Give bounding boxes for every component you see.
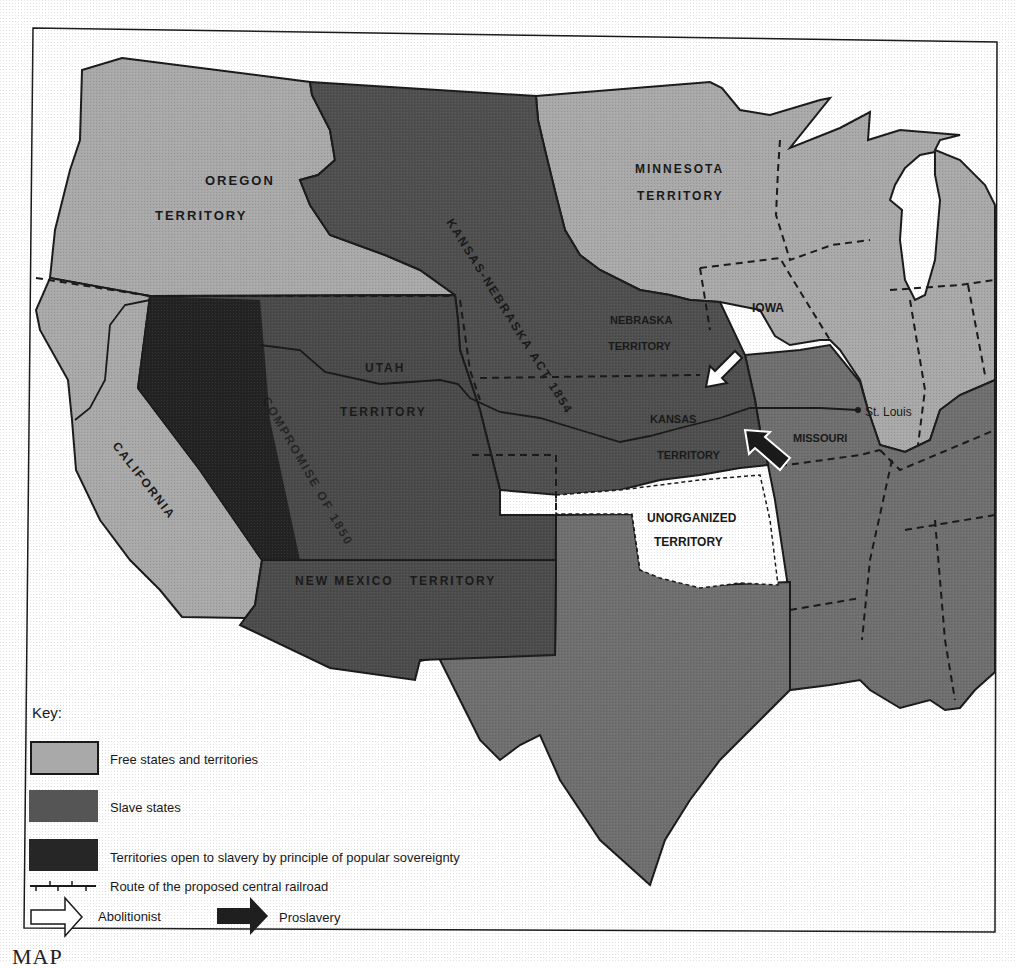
label-new-mexico-territory: NEW MEXICO TERRITORY [295, 574, 496, 588]
key-label-popular-sovereignty: Territories open to slavery by principle… [110, 850, 460, 865]
free-swatch-icon [31, 742, 98, 774]
label-kansas-territory: TERRITORY [657, 449, 721, 461]
label-kansas: KANSAS [650, 413, 696, 425]
label-missouri: MISSOURI [793, 432, 847, 444]
label-minnesota: MINNESOTA [635, 162, 724, 176]
key-label-free: Free states and territories [110, 752, 259, 767]
slave-swatch-icon [29, 790, 98, 822]
label-unorganized: UNORGANIZED [647, 511, 737, 525]
label-st-louis: St. Louis [865, 405, 912, 419]
key-title: Key: [32, 704, 62, 721]
label-oregon-territory: TERRITORY [155, 208, 247, 223]
key-label-slave: Slave states [110, 800, 181, 815]
key-label-railroad: Route of the proposed central railroad [110, 879, 328, 894]
label-utah: UTAH [365, 361, 405, 375]
label-unorganized-territory: TERRITORY [654, 535, 723, 549]
popular-sovereignty-swatch-icon [29, 839, 98, 871]
label-nebraska-territory: TERRITORY [608, 340, 672, 352]
label-nebraska: NEBRASKA [610, 314, 672, 326]
key-label-abolitionist: Abolitionist [98, 909, 161, 924]
label-oregon: OREGON [205, 173, 275, 188]
label-iowa: IOWA [752, 301, 784, 315]
label-utah-territory: TERRITORY [340, 405, 427, 419]
st-louis-dot [855, 407, 861, 413]
label-minnesota-territory: TERRITORY [637, 189, 724, 203]
key-label-proslavery: Proslavery [279, 910, 341, 925]
figure-caption: MAP [12, 944, 63, 968]
